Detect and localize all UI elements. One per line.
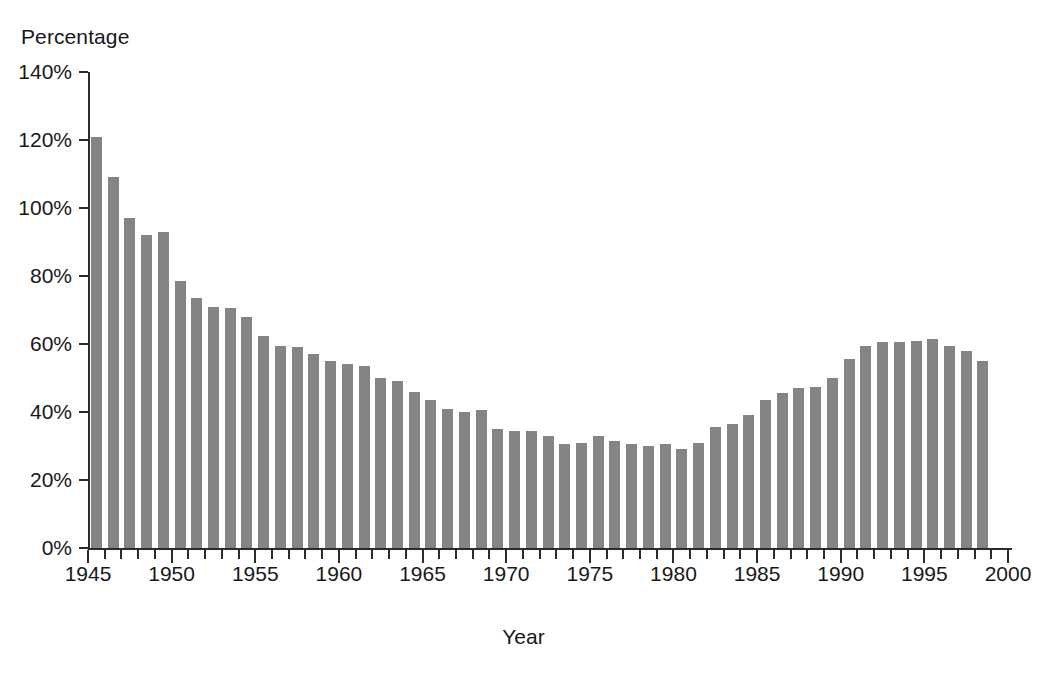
- bar: [693, 443, 704, 548]
- x-axis-minor-tick: [488, 550, 490, 559]
- x-axis-tick-label: 1945: [65, 562, 112, 586]
- x-axis-minor-tick: [522, 550, 524, 559]
- x-axis-minor-tick: [990, 550, 992, 559]
- y-axis-tick: [79, 207, 88, 209]
- bar: [609, 441, 620, 548]
- x-axis-minor-tick: [405, 550, 407, 559]
- bar: [459, 412, 470, 548]
- x-axis-tick-label: 1955: [232, 562, 279, 586]
- x-axis-minor-tick: [606, 550, 608, 559]
- y-axis-tick-label: 80%: [30, 264, 72, 288]
- x-axis-minor-tick: [940, 550, 942, 559]
- x-axis-minor-tick: [706, 550, 708, 559]
- y-axis-tick: [79, 275, 88, 277]
- x-axis-tick-label: 1975: [566, 562, 613, 586]
- bar: [124, 218, 135, 548]
- x-axis-minor-tick: [723, 550, 725, 559]
- bar: [877, 342, 888, 548]
- bar: [476, 410, 487, 548]
- bar: [977, 361, 988, 548]
- bar: [559, 444, 570, 548]
- x-axis-tick-label: 2000: [985, 562, 1032, 586]
- bar: [793, 388, 804, 548]
- x-axis-minor-tick: [137, 550, 139, 559]
- y-axis-tick: [79, 411, 88, 413]
- y-axis-tick: [79, 71, 88, 73]
- x-axis-minor-tick: [773, 550, 775, 559]
- bar: [409, 392, 420, 548]
- bar: [911, 341, 922, 548]
- y-axis-tick: [79, 343, 88, 345]
- x-axis-minor-tick: [790, 550, 792, 559]
- bar: [643, 446, 654, 548]
- x-axis-minor-tick: [104, 550, 106, 559]
- bar: [593, 436, 604, 548]
- bar: [660, 444, 671, 548]
- bar: [208, 307, 219, 548]
- x-axis-minor-tick: [455, 550, 457, 559]
- x-axis-minor-tick: [957, 550, 959, 559]
- bar: [191, 298, 202, 548]
- bar: [425, 400, 436, 548]
- bar: [543, 436, 554, 548]
- bar: [860, 346, 871, 548]
- x-axis-title: Year: [0, 625, 1047, 649]
- bar: [275, 346, 286, 548]
- x-axis-minor-tick: [907, 550, 909, 559]
- bar: [777, 393, 788, 548]
- bar: [894, 342, 905, 548]
- bar: [526, 431, 537, 548]
- x-axis-minor-tick: [739, 550, 741, 559]
- y-axis-tick-label: 40%: [30, 400, 72, 424]
- x-axis-tick-label: 1980: [650, 562, 697, 586]
- x-axis-minor-tick: [622, 550, 624, 559]
- bar: [325, 361, 336, 548]
- x-axis-minor-tick: [288, 550, 290, 559]
- x-axis-minor-tick: [321, 550, 323, 559]
- bar: [225, 308, 236, 548]
- bar: [392, 381, 403, 548]
- bar: [827, 378, 838, 548]
- x-axis-tick-label: 1990: [817, 562, 864, 586]
- y-axis-tick-labels: 140%120%100%80%60%40%20%0%: [0, 0, 72, 681]
- bar: [175, 281, 186, 548]
- bar: [676, 449, 687, 548]
- bar: [727, 424, 738, 548]
- bar: [927, 339, 938, 548]
- bar: [710, 427, 721, 548]
- x-axis-minor-tick: [371, 550, 373, 559]
- y-axis-tick-label: 100%: [18, 196, 72, 220]
- x-axis-minor-tick: [974, 550, 976, 559]
- x-axis-tick-label: 1985: [734, 562, 781, 586]
- x-axis-tick-label: 1995: [901, 562, 948, 586]
- x-axis-tick-label: 1970: [483, 562, 530, 586]
- bar: [359, 366, 370, 548]
- bar: [442, 409, 453, 548]
- x-axis-minor-tick: [873, 550, 875, 559]
- x-axis-minor-tick: [204, 550, 206, 559]
- bar: [258, 336, 269, 549]
- bar: [158, 232, 169, 548]
- x-axis-minor-tick: [355, 550, 357, 559]
- x-axis-tick-label: 1965: [399, 562, 446, 586]
- bar: [743, 415, 754, 548]
- y-axis-tick-label: 20%: [30, 468, 72, 492]
- x-axis-minor-tick: [388, 550, 390, 559]
- bar: [492, 429, 503, 548]
- bar: [961, 351, 972, 548]
- x-axis-tick-label: 1950: [148, 562, 195, 586]
- bar: [342, 364, 353, 548]
- bar: [292, 347, 303, 548]
- x-axis-minor-tick: [656, 550, 658, 559]
- y-axis-tick-label: 0%: [42, 536, 72, 560]
- chart-figure: Percentage 140%120%100%80%60%40%20%0% 19…: [0, 0, 1047, 681]
- x-axis-minor-tick: [856, 550, 858, 559]
- x-axis-minor-tick: [187, 550, 189, 559]
- x-axis-minor-tick: [120, 550, 122, 559]
- bar: [626, 444, 637, 548]
- x-axis-minor-tick: [438, 550, 440, 559]
- x-axis-minor-tick: [238, 550, 240, 559]
- x-axis-minor-tick: [572, 550, 574, 559]
- bar: [576, 443, 587, 548]
- bar: [810, 387, 821, 549]
